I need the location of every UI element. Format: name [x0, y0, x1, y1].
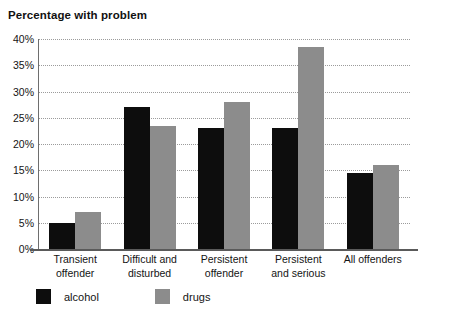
legend-item-drugs: drugs: [155, 289, 211, 304]
y-axis-line: [38, 39, 39, 250]
x-axis-label-line: and serious: [253, 267, 343, 281]
x-axis-category-label: All offenders: [328, 253, 418, 267]
bar-drugs: [75, 212, 101, 249]
bar-group: [187, 39, 261, 249]
bar-alcohol: [198, 128, 224, 249]
y-axis-tick-label: 5%: [19, 217, 34, 229]
bar-group: [38, 39, 112, 249]
legend-swatch-drugs: [155, 289, 170, 304]
bar-group: [261, 39, 335, 249]
legend-label-drugs: drugs: [183, 291, 211, 303]
y-axis-tick-label: 30%: [13, 86, 34, 98]
plot-area: [38, 39, 410, 249]
bar-alcohol: [347, 173, 373, 249]
y-axis-tick-label: 40%: [13, 33, 34, 45]
y-axis-tick-label: 35%: [13, 59, 34, 71]
y-axis-tick-labels: 40%35%30%25%20%15%10%5%0%: [0, 39, 34, 249]
bar-alcohol: [272, 128, 298, 249]
bar-drugs: [150, 126, 176, 249]
bar-drugs: [298, 47, 324, 249]
bar-drugs: [373, 165, 399, 249]
chart-title: Percentage with problem: [8, 9, 147, 21]
legend-label-alcohol: alcohol: [64, 291, 99, 303]
bar-group: [336, 39, 410, 249]
chart-legend: alcoholdrugs: [36, 289, 210, 304]
x-axis-line: [30, 249, 418, 251]
legend-swatch-alcohol: [36, 289, 51, 304]
x-axis-category-labels: TransientoffenderDifficult anddisturbedP…: [38, 253, 410, 287]
x-axis-label-line: All offenders: [328, 253, 418, 267]
bar-alcohol: [49, 223, 75, 249]
legend-item-alcohol: alcohol: [36, 289, 99, 304]
bar-group: [112, 39, 186, 249]
y-axis-tick-label: 20%: [13, 138, 34, 150]
y-axis-tick-label: 10%: [13, 191, 34, 203]
bars-layer: [38, 39, 410, 249]
bar-drugs: [224, 102, 250, 249]
y-axis-tick-label: 25%: [13, 112, 34, 124]
y-axis-tick-label: 15%: [13, 164, 34, 176]
bar-alcohol: [124, 107, 150, 249]
bar-chart: Percentage with problem 40%35%30%25%20%1…: [0, 0, 450, 313]
